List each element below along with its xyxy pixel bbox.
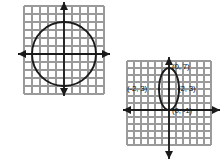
point-label-top: (0, 7): [172, 62, 189, 71]
vertex-dot-top: [168, 67, 170, 69]
circle-graph: [14, 2, 114, 98]
circle-graph-svg: [14, 2, 114, 98]
center-dot: [168, 88, 170, 90]
figure-canvas: (0, 7) (-2, 3) (2, 3) (0, -1): [0, 0, 223, 161]
point-label-left: (-2, 3): [127, 84, 147, 93]
vertex-dot-left: [158, 88, 160, 90]
ellipse-graph: (0, 7) (-2, 3) (2, 3) (0, -1): [120, 57, 223, 161]
point-label-right: (2, 3): [178, 84, 195, 93]
point-label-bottom: (0, -1): [172, 106, 192, 115]
origin-dot: [63, 53, 66, 56]
vertex-dot-bottom: [168, 109, 170, 111]
